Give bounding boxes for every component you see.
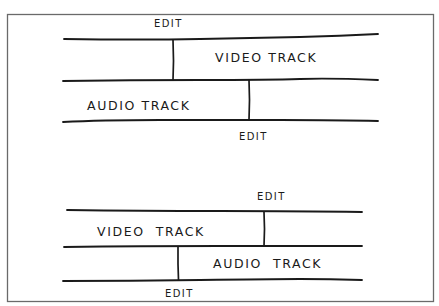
top-diagram: EDIT VIDEO TRACK AUDIO TRACK EDIT	[63, 18, 378, 142]
split-edit-diagram: EDIT VIDEO TRACK AUDIO TRACK EDIT EDIT V…	[0, 0, 439, 306]
bottom-audio-track-label: AUDIO TRACK	[213, 256, 322, 271]
bottom-video-track-label: VIDEO TRACK	[97, 224, 205, 239]
bottom-track-line-3	[63, 279, 362, 281]
bottom-track-line-1	[67, 210, 362, 212]
bottom-diagram: EDIT VIDEO TRACK AUDIO TRACK EDIT	[63, 191, 362, 299]
bottom-video-edit-cut	[264, 212, 265, 246]
top-edit-above-label: EDIT	[154, 18, 183, 29]
top-audio-track-label: AUDIO TRACK	[87, 98, 191, 113]
top-track-line-3	[63, 120, 378, 122]
top-track-line-2	[63, 79, 378, 81]
top-video-edit-cut	[173, 40, 174, 80]
top-track-line-1	[64, 34, 378, 40]
bottom-edit-below-label: EDIT	[165, 288, 194, 299]
bottom-audio-edit-cut	[178, 247, 179, 280]
bottom-edit-above-label: EDIT	[257, 191, 286, 202]
bottom-track-line-2	[64, 246, 362, 247]
top-audio-edit-cut	[249, 80, 250, 120]
top-edit-below-label: EDIT	[239, 131, 268, 142]
top-video-track-label: VIDEO TRACK	[215, 50, 317, 65]
